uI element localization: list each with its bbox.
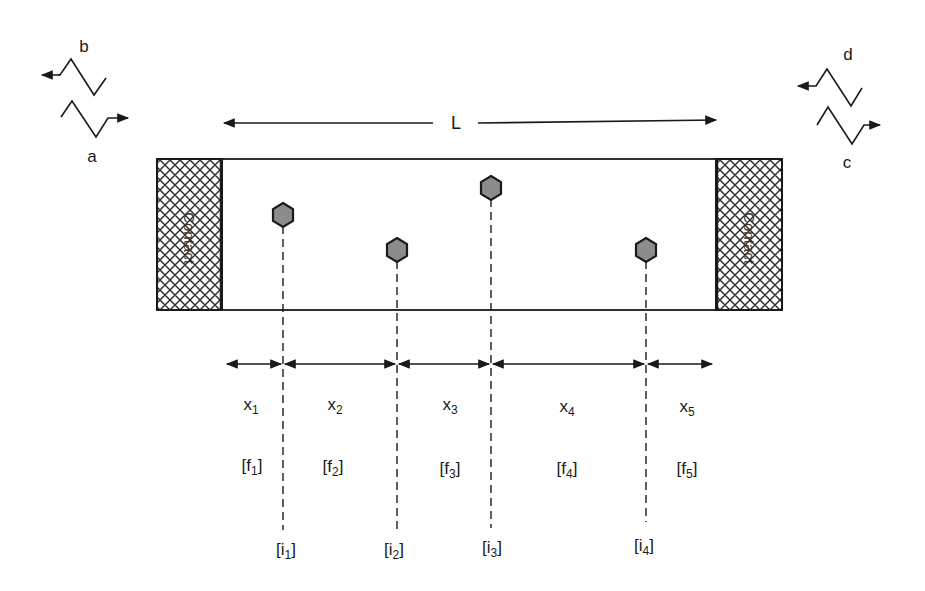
wave-b-icon [42, 59, 106, 95]
scatterer-4-icon [636, 238, 656, 262]
impurity-i1-label: [i1] [276, 541, 296, 561]
impurity-i2-label: [i2] [384, 541, 404, 561]
wave-a-label: a [87, 148, 96, 165]
segment-f3-label: [f3] [440, 460, 461, 480]
segment-x3-label: x3 [442, 396, 457, 416]
segment-f2-label: [f2] [323, 458, 344, 478]
segment-f4-label: [f4] [557, 460, 578, 480]
wave-b-label: b [79, 38, 88, 55]
length-dimension [224, 120, 716, 123]
wave-a-icon [61, 101, 128, 137]
impurity-i4-label: [i4] [634, 537, 654, 557]
segment-x2-label: x2 [327, 396, 342, 416]
scatterers [273, 176, 656, 262]
wave-c-label: c [843, 154, 852, 171]
wave-d-icon [798, 69, 862, 106]
segment-x1-label: x1 [243, 396, 258, 416]
left-contact-label: Contact [181, 212, 198, 264]
right-contact-label: Contact [741, 212, 758, 264]
scatterer-3-icon [481, 176, 501, 200]
scatterer-1-icon [273, 203, 293, 227]
segment-f5-label: [f5] [677, 460, 698, 480]
diagram-canvas [0, 0, 925, 591]
scatterer-2-icon [387, 238, 407, 262]
length-arrow-right [478, 120, 716, 123]
impurity-i3-label: [i3] [482, 539, 502, 559]
length-label: L [451, 114, 461, 132]
wave-d-label: d [843, 46, 852, 63]
segment-f1-label: [f1] [242, 457, 263, 477]
wave-c-icon [817, 107, 880, 144]
device-channel [157, 159, 782, 310]
segment-x5-label: x5 [679, 398, 694, 418]
segment-x4-label: x4 [559, 398, 574, 418]
